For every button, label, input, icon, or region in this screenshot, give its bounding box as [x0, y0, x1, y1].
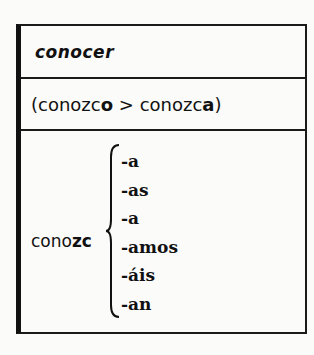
ending-item: -a [121, 204, 178, 233]
verb-header-row: conocer [21, 26, 305, 79]
from-ending: o [101, 94, 113, 115]
ending-item: -as [121, 176, 178, 205]
stem-change-row: (conozco > conozca) [21, 79, 305, 131]
verb-title: conocer [35, 42, 114, 62]
ending-item: -an [121, 290, 178, 319]
stem-bold: zc [72, 231, 92, 251]
to-ending: a [202, 94, 214, 115]
ending-list: -a -as -a -amos -áis -an [121, 147, 178, 318]
conjugation-table: conocer (conozco > conozca) conozc -a -a… [16, 24, 307, 334]
stem-plain: cono [31, 231, 72, 251]
ending-item: -áis [121, 261, 178, 290]
curly-brace-icon [105, 143, 121, 319]
ending-item: -amos [121, 233, 178, 262]
derivation-arrow: > [113, 94, 140, 115]
to-stem: conozc [140, 94, 203, 115]
ending-item: -a [121, 147, 178, 176]
endings-row: conozc -a -as -a -amos -áis -an [21, 131, 305, 332]
paren-close: ) [214, 94, 221, 115]
from-stem: conozc [38, 94, 101, 115]
paren-open: ( [31, 94, 38, 115]
stem: conozc [31, 231, 92, 251]
